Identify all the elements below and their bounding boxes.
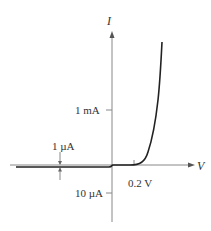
label-10ua: 10 µA — [75, 187, 103, 199]
current-axis-arrow-icon — [110, 31, 115, 38]
label-0-2v: 0.2 V — [128, 177, 152, 189]
marker-arrow-up-icon — [58, 168, 62, 172]
current-axis-label: I — [106, 14, 112, 28]
label-1ma: 1 mA — [75, 104, 100, 116]
diode-iv-diagram: I V 1 mA 10 µA 0.2 V 1 µA — [0, 0, 211, 231]
voltage-axis-arrow-icon — [188, 163, 195, 168]
marker-arrow-down-icon — [58, 161, 62, 165]
label-1ua: 1 µA — [52, 140, 75, 152]
voltage-axis-label: V — [197, 159, 206, 173]
saturation-current-marker — [58, 152, 62, 180]
